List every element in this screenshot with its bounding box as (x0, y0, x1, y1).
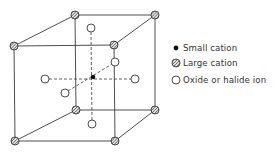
anion-bottom (88, 120, 96, 128)
legend-item-large-cation: Large cation (168, 56, 238, 70)
anion-back (111, 58, 119, 66)
legend-item-small-cation: Small cation (168, 41, 237, 55)
legend-label: Oxide or halide ion (183, 75, 266, 85)
anion-front (61, 89, 69, 97)
large-cation-icon (168, 56, 184, 70)
figure-caption (40, 153, 190, 158)
anion-left (41, 75, 49, 83)
anion-top (87, 24, 95, 32)
anion-icon (168, 73, 184, 87)
small-cation-icon (168, 41, 184, 55)
small-cation-atom (91, 75, 96, 80)
legend-label: Large cation (183, 58, 238, 68)
legend-label: Small cation (183, 43, 237, 53)
anion-atoms (41, 24, 139, 128)
anion-right (131, 75, 139, 83)
perovskite-structure-diagram (0, 0, 170, 158)
legend-item-anion: Oxide or halide ion (168, 73, 266, 87)
